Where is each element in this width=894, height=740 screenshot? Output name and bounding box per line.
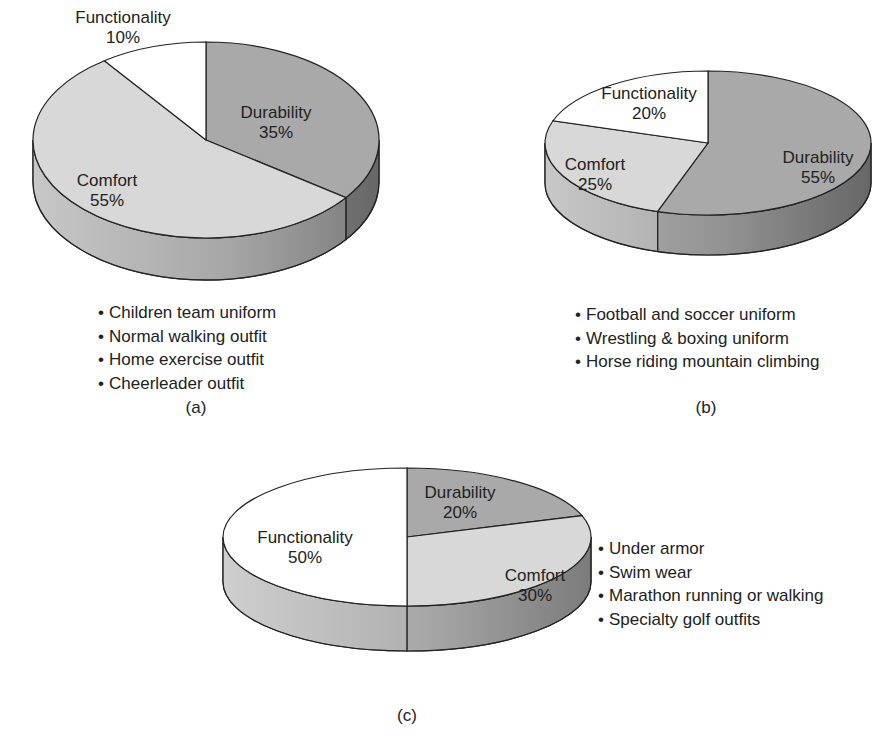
list-item: Normal walking outfit (98, 325, 276, 349)
list-item: Children team uniform (98, 301, 276, 325)
list-item: Swim wear (598, 561, 824, 585)
list-item: Wrestling & boxing uniform (575, 327, 819, 351)
slice-percent: 55% (52, 191, 162, 211)
slice-label-comfort-c: Comfort 30% (480, 566, 590, 606)
list-item: Under armor (598, 537, 824, 561)
pie-chart-a (33, 42, 379, 280)
caption-a: (a) (186, 398, 207, 418)
list-item: Home exercise outfit (98, 348, 276, 372)
list-item: Marathon running or walking (598, 584, 824, 608)
slice-label-durability-b: Durability 55% (758, 148, 878, 188)
slice-name: Durability (216, 103, 336, 123)
slice-percent: 10% (58, 28, 188, 48)
slice-percent: 20% (584, 104, 714, 124)
slice-label-functionality-a: Functionality 10% (58, 8, 188, 48)
slice-label-functionality-b: Functionality 20% (584, 84, 714, 124)
slice-label-functionality-c: Functionality 50% (240, 528, 370, 568)
slice-label-durability-a: Durability 35% (216, 103, 336, 143)
caption-b: (b) (696, 398, 717, 418)
slice-label-comfort-a: Comfort 55% (52, 171, 162, 211)
list-item: Football and soccer uniform (575, 303, 819, 327)
slice-name: Durability (410, 483, 510, 503)
slice-percent: 20% (410, 503, 510, 523)
slice-name: Comfort (480, 566, 590, 586)
application-list-a: Children team uniform Normal walking out… (98, 301, 276, 395)
slice-name: Comfort (550, 155, 640, 175)
slice-name: Functionality (584, 84, 714, 104)
slice-percent: 50% (240, 548, 370, 568)
slice-percent: 55% (758, 168, 878, 188)
slice-name: Durability (758, 148, 878, 168)
list-item: Specialty golf outfits (598, 608, 824, 632)
slice-percent: 25% (550, 175, 640, 195)
slice-name: Functionality (240, 528, 370, 548)
caption-c: (c) (397, 706, 417, 726)
list-item: Horse riding mountain climbing (575, 350, 819, 374)
list-item: Cheerleader outfit (98, 372, 276, 396)
application-list-b: Football and soccer uniform Wrestling & … (575, 303, 819, 374)
slice-label-comfort-b: Comfort 25% (550, 155, 640, 195)
slice-label-durability-c: Durability 20% (410, 483, 510, 523)
slice-name: Functionality (58, 8, 188, 28)
application-list-c: Under armor Swim wear Marathon running o… (598, 537, 824, 631)
slice-name: Comfort (52, 171, 162, 191)
slice-percent: 30% (480, 586, 590, 606)
slice-percent: 35% (216, 123, 336, 143)
